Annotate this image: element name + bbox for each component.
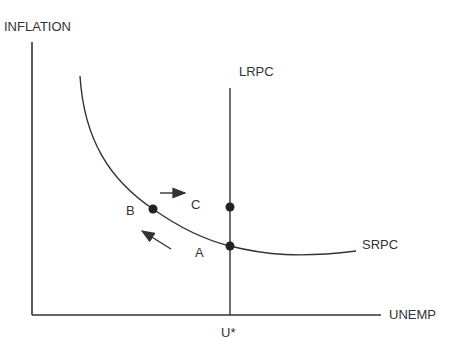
up-left-arrow-icon xyxy=(142,231,171,249)
phillips-curve-diagram xyxy=(0,0,467,360)
point-c-label: C xyxy=(191,197,200,212)
y-axis-label: INFLATION xyxy=(4,19,71,34)
srpc-curve xyxy=(80,76,356,255)
point-a-dot xyxy=(226,242,235,251)
point-b-dot xyxy=(149,205,158,214)
x-tick-u-star: U* xyxy=(221,325,235,340)
srpc-label: SRPC xyxy=(362,237,398,252)
point-b-label: B xyxy=(126,203,135,218)
point-c-dot xyxy=(226,203,235,212)
point-a-label: A xyxy=(195,245,204,260)
x-axis-label: UNEMP xyxy=(389,307,436,322)
lrpc-label: LRPC xyxy=(239,64,274,79)
